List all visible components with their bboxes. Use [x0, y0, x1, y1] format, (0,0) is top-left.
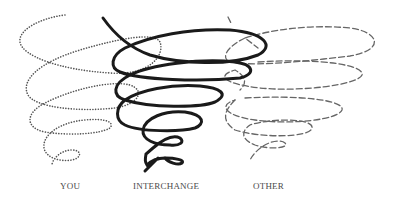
you-spiral — [20, 15, 161, 165]
other-spiral — [225, 17, 375, 160]
you-label: YOU — [60, 181, 80, 191]
interchange-label: INTERCHANGE — [133, 181, 199, 191]
other-label: OTHER — [253, 181, 284, 191]
spiral-diagram — [0, 0, 393, 201]
interchange-spiral — [103, 18, 266, 171]
